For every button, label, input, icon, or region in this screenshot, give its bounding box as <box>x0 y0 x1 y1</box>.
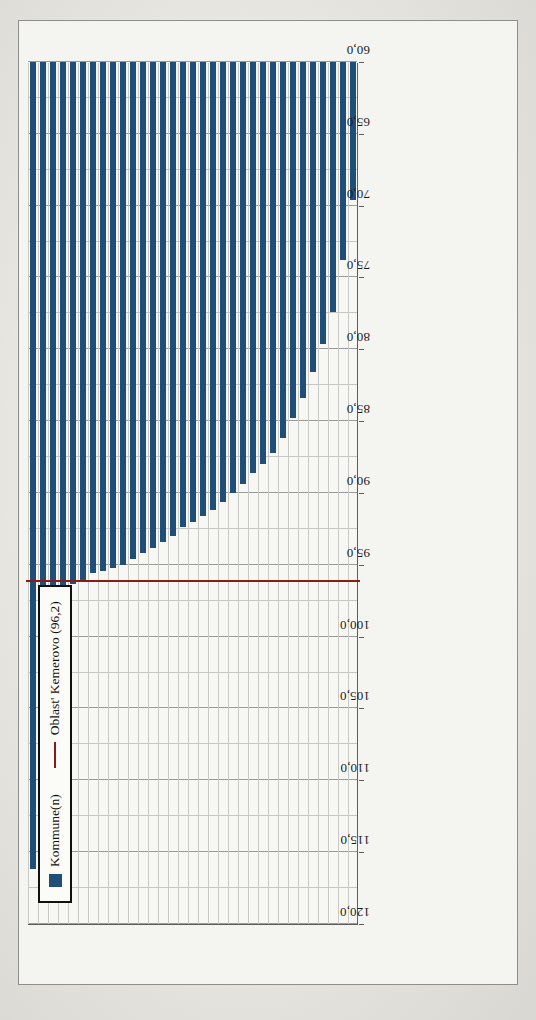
axis-tick-label: 100,0 <box>340 616 370 632</box>
category-separator <box>298 63 299 924</box>
category-separator <box>238 63 239 924</box>
axis-tick <box>359 636 364 637</box>
category-separator <box>178 63 179 924</box>
bar <box>180 62 186 527</box>
bar <box>130 62 136 559</box>
bar <box>60 62 66 608</box>
category-separator <box>288 63 289 924</box>
axis-tick-label: 85,0 <box>346 401 370 417</box>
legend-label-oblast-reference: Oblast' Kemerovo (96,2) <box>47 601 63 735</box>
category-separator <box>198 63 199 924</box>
legend-item-oblast-reference: Oblast' Kemerovo (96,2) <box>47 601 63 768</box>
bar <box>110 62 116 568</box>
category-separator <box>118 63 119 924</box>
bar <box>310 62 316 372</box>
category-separator <box>98 63 99 924</box>
bar <box>250 62 256 473</box>
axis-tick-label: 120,0 <box>340 904 370 920</box>
category-separator <box>308 63 309 924</box>
category-separator <box>268 63 269 924</box>
axis-tick-label: 65,0 <box>346 113 370 129</box>
bar <box>220 62 226 502</box>
axis-tick-label: 110,0 <box>340 760 370 776</box>
bar <box>230 62 236 493</box>
axis-tick <box>359 708 364 709</box>
bar <box>140 62 146 553</box>
axis-tick <box>359 205 364 206</box>
bar <box>290 62 296 418</box>
category-separator <box>338 63 339 924</box>
bar <box>80 62 86 582</box>
axis-tick-label: 60,0 <box>346 42 370 58</box>
category-separator <box>318 63 319 924</box>
axis-tick-label: 105,0 <box>340 688 370 704</box>
axis-tick-label: 80,0 <box>346 329 370 345</box>
bar <box>270 62 276 453</box>
chart-legend: Kommune(n) Oblast' Kemerovo (96,2) <box>38 585 72 903</box>
bar <box>90 62 96 573</box>
bar-swatch-icon <box>49 874 62 887</box>
axis-tick <box>359 493 364 494</box>
bar <box>280 62 286 438</box>
bar <box>190 62 196 522</box>
bar <box>350 62 356 200</box>
category-separator <box>228 63 229 924</box>
axis-tick <box>359 564 364 565</box>
legend-item-kommunen: Kommune(n) <box>47 794 63 887</box>
bar <box>320 62 326 344</box>
oblast-reference-line <box>26 579 360 581</box>
axis-tick <box>359 780 364 781</box>
rotated-bar-chart: 120,0115,0110,0105,0100,095,090,085,080,… <box>20 23 516 983</box>
axis-tick <box>359 62 364 63</box>
axis-tick <box>359 133 364 134</box>
category-separator <box>88 63 89 924</box>
bar <box>260 62 266 464</box>
category-label: Kemerovo Stadt <box>29 20 143 22</box>
category-separator <box>108 63 109 924</box>
plot-area <box>28 63 358 925</box>
axis-tick <box>359 924 364 925</box>
category-separator <box>78 63 79 924</box>
bar <box>150 62 156 548</box>
axis-tick <box>359 852 364 853</box>
bar <box>340 62 346 260</box>
axis-tick-label: 95,0 <box>346 544 370 560</box>
legend-label-kommunen: Kommune(n) <box>47 794 63 867</box>
category-separator <box>168 63 169 924</box>
category-separator <box>218 63 219 924</box>
axis-tick <box>359 349 364 350</box>
line-swatch-icon <box>54 742 57 768</box>
bar <box>300 62 306 398</box>
bar <box>100 62 106 571</box>
bar <box>30 62 36 869</box>
bar <box>70 62 76 584</box>
category-separator <box>28 63 29 924</box>
category-separator <box>278 63 279 924</box>
axis-tick <box>359 277 364 278</box>
bar <box>160 62 166 542</box>
axis-tick <box>359 421 364 422</box>
category-separator <box>128 63 129 924</box>
bar <box>120 62 126 565</box>
category-separator <box>138 63 139 924</box>
bar <box>210 62 216 510</box>
bar <box>240 62 246 484</box>
axis-tick-label: 115,0 <box>340 832 370 848</box>
category-separator <box>148 63 149 924</box>
category-separator <box>158 63 159 924</box>
bar <box>330 62 336 312</box>
bar <box>200 62 206 516</box>
category-separator <box>188 63 189 924</box>
category-separator <box>328 63 329 924</box>
axis-tick-label: 75,0 <box>346 257 370 273</box>
bar <box>50 62 56 611</box>
screenshot-page: 120,0115,0110,0105,0100,095,090,085,080,… <box>0 0 536 1020</box>
category-separator <box>208 63 209 924</box>
bar <box>170 62 176 536</box>
chart-stage-wrapper: 120,0115,0110,0105,0100,095,090,085,080,… <box>18 20 518 985</box>
axis-tick-label: 90,0 <box>346 473 370 489</box>
category-separator <box>248 63 249 924</box>
axis-tick-label: 70,0 <box>346 185 370 201</box>
category-separator <box>258 63 259 924</box>
